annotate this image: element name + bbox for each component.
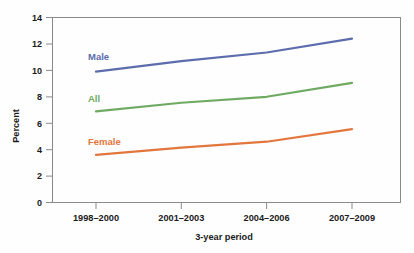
x-tick-label-2007-2009: 2007–2009 bbox=[329, 213, 375, 223]
chart-canvas: 14 12 10 8 6 4 2 0 Percent 1998–2000 200… bbox=[0, 0, 414, 253]
series-label-male: Male bbox=[88, 51, 109, 62]
x-axis-title: 3-year period bbox=[195, 232, 253, 242]
y-tick-label-6: 6 bbox=[37, 119, 42, 129]
y-axis-title: Percent bbox=[11, 109, 21, 143]
y-tick-label-2: 2 bbox=[37, 171, 42, 181]
x-tick-label-2004-2006: 2004–2006 bbox=[244, 213, 290, 223]
y-tick-label-4: 4 bbox=[37, 145, 42, 155]
series-label-female: Female bbox=[88, 136, 121, 147]
y-tick-label-10: 10 bbox=[32, 66, 42, 76]
series-label-all: All bbox=[88, 93, 100, 104]
y-tick-label-12: 12 bbox=[32, 39, 42, 49]
x-tick-label-2001-2003: 2001–2003 bbox=[158, 213, 204, 223]
line-chart-figure: 14 12 10 8 6 4 2 0 Percent 1998–2000 200… bbox=[0, 0, 414, 253]
y-tick-label-14: 14 bbox=[32, 13, 42, 23]
y-tick-label-8: 8 bbox=[37, 92, 42, 102]
y-tick-label-0: 0 bbox=[37, 198, 42, 208]
x-tick-label-1998-2000: 1998–2000 bbox=[73, 213, 119, 223]
